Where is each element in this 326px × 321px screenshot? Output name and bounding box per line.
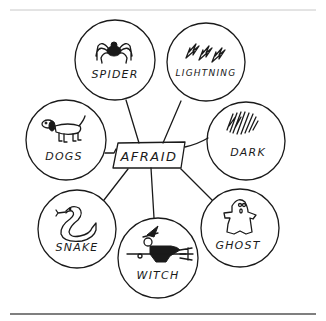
connector-snake [104, 169, 128, 200]
node-label: DOGS [45, 150, 82, 163]
node-ghost: GHOST [201, 189, 279, 267]
connector-dogs [105, 149, 116, 153]
ghost-icon [224, 200, 256, 234]
node-snake: SNAKE [38, 190, 116, 268]
witch-icon [127, 226, 193, 262]
node-label: WITCH [137, 269, 180, 282]
afraid-mind-map: AFRAID SPIDER LIGHTNING DARK [0, 0, 326, 321]
node-spider: SPIDER [75, 20, 155, 100]
node-dark: DARK [207, 102, 285, 180]
connector-lightning [163, 101, 181, 143]
node-witch: WITCH [118, 218, 198, 298]
lightning-icon [186, 44, 225, 62]
node-label: DARK [230, 146, 266, 159]
node-dogs: DOGS [26, 100, 106, 180]
connector-ghost [181, 169, 212, 200]
spider-icon [96, 42, 132, 63]
node-label: SPIDER [91, 68, 138, 81]
center-node: AFRAID [113, 142, 185, 168]
node-label: GHOST [215, 239, 260, 252]
connector-witch [151, 168, 154, 218]
scribble-dark-icon [227, 112, 258, 134]
center-label: AFRAID [119, 149, 177, 164]
dog-icon [42, 116, 85, 142]
node-label: SNAKE [56, 241, 99, 254]
connector-spider [126, 100, 139, 143]
node-label: LIGHTNING [176, 68, 237, 78]
node-lightning: LIGHTNING [167, 23, 245, 101]
connector-dark [185, 138, 208, 147]
snake-icon [56, 207, 96, 242]
